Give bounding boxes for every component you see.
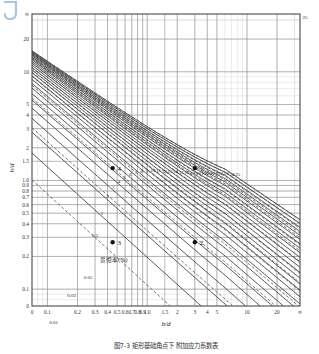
- x-tick-0: 0: [31, 309, 34, 315]
- dashed-curve-label-0.02: 0.02: [67, 293, 76, 298]
- x-tick-0.5: 0.5: [114, 309, 121, 315]
- y-tick-20: 20: [24, 36, 30, 42]
- curve-label-11: 11: [156, 168, 161, 173]
- y-tick-1.0: 1.0: [22, 177, 29, 183]
- y-tick-0.5: 0.5: [22, 210, 29, 216]
- y-tick-0: 0: [26, 303, 29, 309]
- x-tick-3: 3: [193, 309, 196, 315]
- dashed-curve-label-0.05: 0.05: [84, 275, 93, 280]
- y-tick-4: 4: [26, 112, 29, 118]
- annotation-penetration-rate: 贯彻率(%): [100, 256, 128, 264]
- y-tick-0.3: 0.3: [22, 234, 29, 240]
- y-tick-∞: ∞: [25, 11, 29, 17]
- marked-point-label-3: 3: [118, 239, 122, 247]
- x-axis-title: b/d: [162, 320, 171, 328]
- plot-background: [0, 0, 319, 354]
- dashed-curve-label-0.01: 0.01: [49, 320, 58, 325]
- x-tick-1.0: 1.0: [144, 309, 151, 315]
- figure-container: 00.10.20.30.40.50.60.70.80.91.01.5234510…: [0, 0, 319, 354]
- marked-point-label-4: 4: [118, 165, 122, 173]
- marked-point-3[interactable]: [110, 240, 114, 244]
- x-tick-∞: ∞: [298, 309, 302, 315]
- y-tick-0.7: 0.7: [22, 194, 29, 200]
- x-tick-2: 2: [176, 309, 179, 315]
- x-tick-4: 4: [206, 309, 209, 315]
- x-tick-0.3: 0.3: [92, 309, 99, 315]
- y-tick-0.6: 0.6: [22, 202, 29, 208]
- dashed-curve-label-0.5: 0.5: [92, 233, 99, 238]
- x-tick-0.4: 0.4: [104, 309, 111, 315]
- x-tick-20: 20: [274, 309, 280, 315]
- y-tick-5: 5: [26, 101, 29, 107]
- y-tick-0.2: 0.2: [22, 253, 29, 259]
- y-tick-0.4: 0.4: [22, 221, 29, 227]
- nomogram-plot: 00.10.20.30.40.50.60.70.80.91.01.5234510…: [0, 0, 319, 354]
- corner-label-25: 25: [303, 15, 309, 20]
- x-tick-0.2: 0.2: [74, 309, 81, 315]
- x-tick-1.5: 1.5: [161, 309, 168, 315]
- x-tick-5: 5: [216, 309, 219, 315]
- y-tick-0.1: 0.1: [22, 286, 29, 292]
- marked-point-label-1: 1: [200, 165, 204, 173]
- x-tick-10: 10: [244, 309, 250, 315]
- y-tick-0.8: 0.8: [22, 188, 29, 194]
- curve-label-10: 10: [150, 168, 156, 173]
- figure-caption: 图7-3 矩形基础角点下 附加应力系数表: [114, 341, 220, 350]
- y-tick-10: 10: [24, 69, 30, 75]
- curve-label-25: 25: [235, 172, 241, 177]
- x-tick-0.1: 0.1: [44, 309, 51, 315]
- marked-point-4[interactable]: [110, 166, 114, 170]
- y-tick-3: 3: [26, 126, 29, 132]
- y-tick-1.5: 1.5: [22, 158, 29, 164]
- marked-point-2[interactable]: [193, 240, 197, 244]
- marked-point-label-2: 2: [200, 239, 204, 247]
- y-tick-2: 2: [26, 145, 29, 151]
- marked-point-1[interactable]: [193, 166, 197, 170]
- y-axis-title: h/d: [8, 163, 16, 172]
